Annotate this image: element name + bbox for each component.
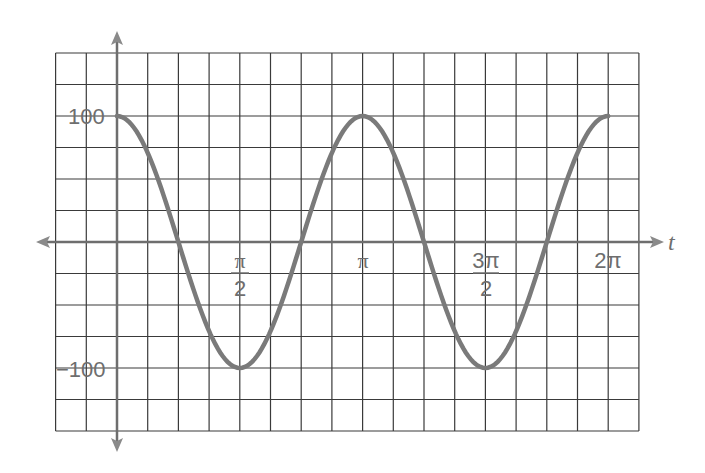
y-label-neg100: −100 bbox=[56, 357, 106, 382]
x-label-pi: π bbox=[357, 248, 368, 273]
x-label-3pi-half-num: 3π bbox=[472, 248, 499, 273]
y-label-100: 100 bbox=[68, 104, 105, 129]
x-label-2pi: 2π bbox=[594, 248, 621, 273]
x-label-pi-half-num: π bbox=[234, 248, 245, 273]
x-label-pi-half-den: 2 bbox=[234, 276, 246, 301]
x-label-3pi-half-den: 2 bbox=[480, 276, 492, 301]
t-axis-label: t bbox=[668, 229, 676, 255]
cosine-chart: 100 −100 π 2 π 3π 2 2π t bbox=[0, 0, 705, 473]
axes bbox=[36, 31, 664, 452]
